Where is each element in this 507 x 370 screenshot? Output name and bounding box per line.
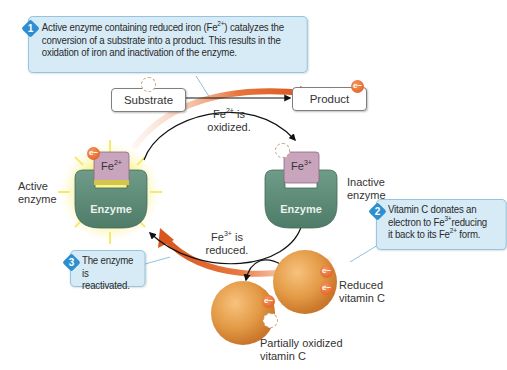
active-enzyme-body-label: Enzyme xyxy=(75,203,147,215)
active-iron-label: Fe2+ xyxy=(94,160,129,172)
reduced-vitamin-c-electron-1-icon: e− xyxy=(320,265,333,278)
reduced-label: Fe3+ is reduced. xyxy=(196,231,258,257)
partially-oxidized-vitamin-c-sphere xyxy=(211,281,275,345)
product-label: Product xyxy=(310,93,350,105)
substrate-label: Substrate xyxy=(124,94,173,106)
partial-vitamin-c-empty-site-icon xyxy=(263,313,278,328)
callout-step-1: Active enzyme containing reduced iron (F… xyxy=(28,16,308,73)
oxidized-label: Fe2+ is oxidized. xyxy=(194,108,264,134)
callout-3-line-1: The enzyme is xyxy=(82,254,139,279)
callout-1-line-2: conversion of a substrate into a product… xyxy=(42,34,300,47)
callout-1-line-1: Active enzyme containing reduced iron (F… xyxy=(42,21,300,34)
inactive-enzyme-empty-site-icon xyxy=(275,143,290,158)
step-3-number: 3 xyxy=(65,256,78,269)
step-2-number: 2 xyxy=(371,205,384,218)
callout-3-line-2: reactivated. xyxy=(82,279,139,292)
reduced-vitamin-c-label: Reduced vitamin C xyxy=(339,279,385,305)
active-enzyme-label: Active enzyme xyxy=(18,180,57,206)
callout-2-line-3: it back to its Fe2+ form. xyxy=(388,228,500,241)
callout-2-line-2: electron to Fe3+reducing xyxy=(388,216,500,229)
partially-oxidized-vitamin-c-label: Partially oxidized vitamin C xyxy=(260,337,343,363)
reduced-vitamin-c-electron-2-icon: e− xyxy=(320,282,333,295)
callout-1-line-3: oxidation of iron and inactivation of th… xyxy=(42,46,300,59)
partial-vitamin-c-electron-icon: e− xyxy=(262,295,275,308)
callout-step-3: The enzyme is reactivated. xyxy=(70,250,145,287)
inactive-iron-label: Fe3+ xyxy=(284,160,319,172)
inactive-enzyme-body-label: Enzyme xyxy=(265,203,337,215)
active-enzyme-electron-icon: e− xyxy=(87,147,100,160)
substrate-empty-site-icon xyxy=(141,77,156,92)
step-1-number: 1 xyxy=(24,22,37,35)
product-electron-icon: e− xyxy=(351,80,364,93)
callout-step-2: Vitamin C donates an electron to Fe3+red… xyxy=(376,199,507,250)
